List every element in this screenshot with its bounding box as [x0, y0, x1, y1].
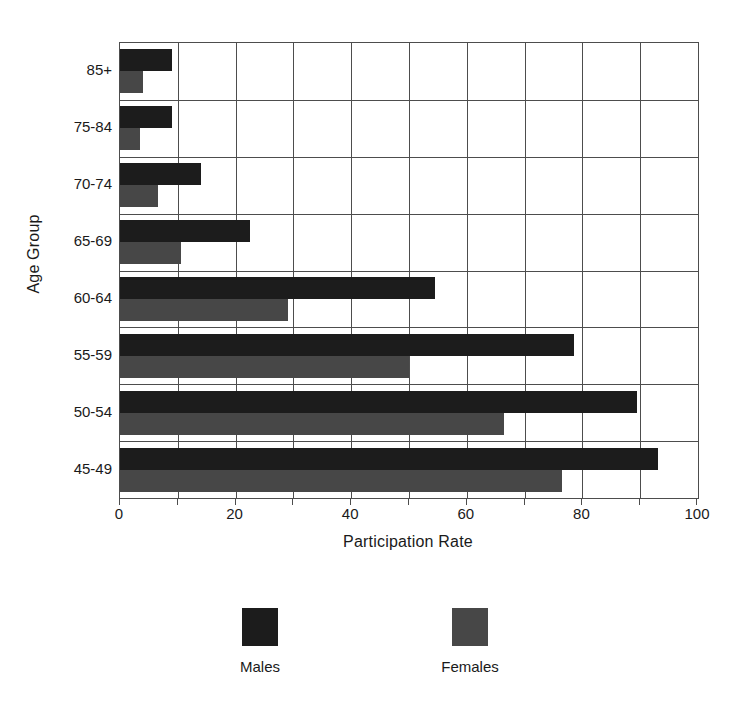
x-tick-label: 40 — [320, 505, 380, 522]
x-tick-label: 80 — [551, 505, 611, 522]
bar-males-55-59 — [120, 334, 574, 356]
x-tick-label: 0 — [89, 505, 149, 522]
x-axis-title: Participation Rate — [119, 533, 697, 551]
bar-females-85plus — [120, 71, 143, 93]
bar-males-75-84 — [120, 106, 172, 128]
y-tick-label: 70-74 — [40, 176, 112, 192]
bar-males-70-74 — [120, 163, 201, 185]
x-tick-mark — [119, 498, 120, 505]
legend-swatch-females — [452, 608, 488, 646]
x-tick-mark — [292, 498, 293, 505]
chart-legend: MalesFemales — [0, 608, 749, 688]
bar-males-65-69 — [120, 220, 250, 242]
x-tick-mark — [408, 498, 409, 505]
bar-group — [120, 327, 698, 384]
bar-group — [120, 441, 698, 498]
bar-females-45-49 — [120, 470, 562, 492]
legend-label-males: Males — [180, 658, 340, 675]
x-tick-label: 100 — [667, 505, 727, 522]
legend-label-females: Females — [390, 658, 550, 675]
y-tick-label: 75-84 — [40, 119, 112, 135]
y-tick-label: 55-59 — [40, 347, 112, 363]
bar-females-65-69 — [120, 242, 181, 264]
y-tick-label: 45-49 — [40, 461, 112, 477]
bar-males-85plus — [120, 49, 172, 71]
bar-group — [120, 271, 698, 328]
bar-males-45-49 — [120, 448, 658, 470]
x-tick-label: 20 — [205, 505, 265, 522]
bar-group — [120, 43, 698, 100]
x-tick-mark — [350, 498, 351, 505]
x-tick-mark — [696, 498, 697, 505]
bar-females-50-54 — [120, 413, 504, 435]
y-axis-tick-labels: 85+75-8470-7465-6960-6455-5950-5445-49 — [36, 42, 112, 497]
x-tick-mark — [524, 498, 525, 505]
x-tick-mark — [466, 498, 467, 505]
legend-entry-females: Females — [390, 608, 550, 675]
bar-females-75-84 — [120, 128, 140, 150]
x-tick-label: 60 — [436, 505, 496, 522]
x-axis-tick-labels: 020406080100 — [119, 505, 697, 525]
bar-chart-figure: Age Group 85+75-8470-7465-6960-6455-5950… — [0, 0, 749, 701]
y-tick-label: 65-69 — [40, 233, 112, 249]
bar-group — [120, 384, 698, 441]
bar-males-60-64 — [120, 277, 435, 299]
legend-entry-males: Males — [180, 608, 340, 675]
legend-swatch-males — [242, 608, 278, 646]
bar-group — [120, 100, 698, 157]
bar-females-70-74 — [120, 185, 158, 207]
y-tick-label: 85+ — [40, 62, 112, 78]
bar-group — [120, 214, 698, 271]
y-tick-label: 50-54 — [40, 404, 112, 420]
x-tick-mark — [581, 498, 582, 505]
bar-group — [120, 157, 698, 214]
x-tick-mark — [177, 498, 178, 505]
y-tick-label: 60-64 — [40, 290, 112, 306]
x-tick-mark — [235, 498, 236, 505]
plot-area — [119, 42, 699, 499]
bar-males-50-54 — [120, 391, 637, 413]
bar-females-60-64 — [120, 299, 288, 321]
bar-females-55-59 — [120, 356, 409, 378]
x-tick-mark — [639, 498, 640, 505]
